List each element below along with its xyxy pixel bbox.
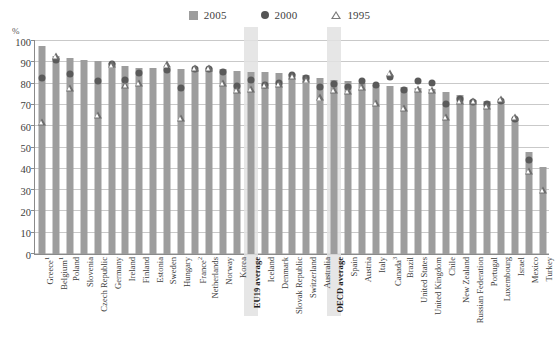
- bar-2005[interactable]: [247, 72, 254, 254]
- bar-2005[interactable]: [386, 86, 393, 254]
- bar-group[interactable]: [466, 41, 480, 254]
- bar-2005[interactable]: [540, 167, 547, 254]
- bar-2005[interactable]: [331, 80, 338, 254]
- marker-1995[interactable]: [38, 118, 46, 125]
- marker-2000[interactable]: [373, 81, 380, 88]
- marker-1995[interactable]: [302, 76, 310, 83]
- bar-group[interactable]: [369, 41, 383, 254]
- marker-1995[interactable]: [233, 87, 241, 94]
- bar-2005[interactable]: [456, 95, 463, 254]
- bar-2005[interactable]: [94, 61, 101, 254]
- bar-2005[interactable]: [428, 89, 435, 254]
- marker-1995[interactable]: [456, 97, 464, 104]
- marker-2000[interactable]: [66, 71, 73, 78]
- bar-2005[interactable]: [219, 69, 226, 254]
- bar-2005[interactable]: [80, 60, 87, 254]
- bar-2005[interactable]: [345, 81, 352, 254]
- bar-2005[interactable]: [275, 73, 282, 254]
- bar-2005[interactable]: [303, 75, 310, 254]
- marker-1995[interactable]: [358, 83, 366, 90]
- bar-2005[interactable]: [400, 87, 407, 254]
- marker-2000[interactable]: [442, 100, 449, 107]
- bar-2005[interactable]: [317, 78, 324, 254]
- marker-2000[interactable]: [178, 84, 185, 91]
- bar-group[interactable]: [244, 41, 258, 254]
- bar-group[interactable]: [230, 41, 244, 254]
- bar-group[interactable]: [536, 41, 550, 254]
- marker-1995[interactable]: [316, 94, 324, 101]
- marker-1995[interactable]: [261, 81, 269, 88]
- bar-group[interactable]: [119, 41, 133, 254]
- marker-1995[interactable]: [497, 95, 505, 102]
- bar-group[interactable]: [383, 41, 397, 254]
- bar-2005[interactable]: [205, 68, 212, 254]
- marker-1995[interactable]: [52, 52, 60, 59]
- bar-group[interactable]: [299, 41, 313, 254]
- marker-2000[interactable]: [136, 69, 143, 76]
- bar-group[interactable]: [146, 41, 160, 254]
- marker-2000[interactable]: [94, 78, 101, 85]
- bar-group[interactable]: [480, 41, 494, 254]
- marker-2000[interactable]: [414, 78, 421, 85]
- bar-group[interactable]: [188, 41, 202, 254]
- bar-2005[interactable]: [150, 68, 157, 254]
- bar-group[interactable]: [132, 41, 146, 254]
- marker-1995[interactable]: [135, 79, 143, 86]
- marker-1995[interactable]: [525, 167, 533, 174]
- marker-1995[interactable]: [247, 85, 255, 92]
- marker-1995[interactable]: [539, 187, 547, 194]
- marker-2000[interactable]: [526, 157, 533, 164]
- bar-group[interactable]: [425, 41, 439, 254]
- marker-2000[interactable]: [219, 68, 226, 75]
- bar-group[interactable]: [105, 41, 119, 254]
- marker-1995[interactable]: [469, 97, 477, 104]
- bar-2005[interactable]: [52, 56, 59, 254]
- bar-2005[interactable]: [192, 70, 199, 254]
- marker-1995[interactable]: [94, 111, 102, 118]
- bar-group[interactable]: [355, 41, 369, 254]
- marker-1995[interactable]: [372, 99, 380, 106]
- marker-1995[interactable]: [121, 81, 129, 88]
- bar-group[interactable]: [49, 41, 63, 254]
- marker-1995[interactable]: [428, 87, 436, 94]
- bar-2005[interactable]: [108, 63, 115, 254]
- bar-2005[interactable]: [498, 102, 505, 254]
- bar-group[interactable]: [63, 41, 77, 254]
- bar-group[interactable]: [91, 41, 105, 254]
- bar-2005[interactable]: [512, 118, 519, 254]
- bar-2005[interactable]: [164, 68, 171, 254]
- bar-2005[interactable]: [261, 72, 268, 254]
- marker-2000[interactable]: [247, 77, 254, 84]
- bar-2005[interactable]: [122, 66, 129, 255]
- marker-1995[interactable]: [177, 114, 185, 121]
- bar-2005[interactable]: [289, 74, 296, 254]
- bar-2005[interactable]: [136, 68, 143, 254]
- marker-1995[interactable]: [414, 85, 422, 92]
- bar-group[interactable]: [313, 41, 327, 254]
- marker-1995[interactable]: [330, 87, 338, 94]
- marker-1995[interactable]: [275, 80, 283, 87]
- bar-group[interactable]: [453, 41, 467, 254]
- bar-group[interactable]: [35, 41, 49, 254]
- marker-1995[interactable]: [205, 64, 213, 71]
- bar-group[interactable]: [327, 41, 341, 254]
- bar-group[interactable]: [272, 41, 286, 254]
- bar-group[interactable]: [397, 41, 411, 254]
- marker-1995[interactable]: [483, 102, 491, 109]
- marker-1995[interactable]: [163, 61, 171, 68]
- bar-group[interactable]: [508, 41, 522, 254]
- bar-2005[interactable]: [178, 69, 185, 254]
- marker-1995[interactable]: [442, 113, 450, 120]
- bar-2005[interactable]: [373, 85, 380, 254]
- bar-2005[interactable]: [484, 101, 491, 254]
- bar-group[interactable]: [160, 41, 174, 254]
- bar-group[interactable]: [411, 41, 425, 254]
- marker-2000[interactable]: [317, 83, 324, 90]
- bar-group[interactable]: [494, 41, 508, 254]
- marker-1995[interactable]: [288, 73, 296, 80]
- bar-group[interactable]: [174, 41, 188, 254]
- marker-1995[interactable]: [511, 113, 519, 120]
- marker-1995[interactable]: [219, 79, 227, 86]
- marker-2000[interactable]: [400, 87, 407, 94]
- marker-2000[interactable]: [38, 75, 45, 82]
